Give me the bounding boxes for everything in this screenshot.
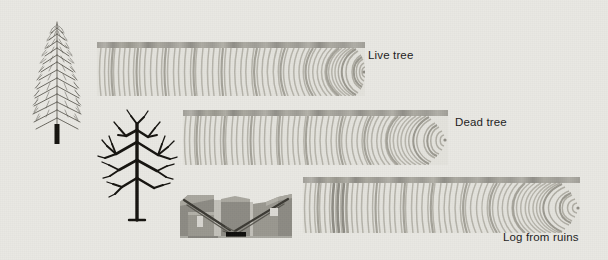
bark-edge xyxy=(97,42,365,48)
ruins-illustration xyxy=(178,186,300,242)
bark-edge xyxy=(183,110,448,116)
sample-dead-tree-core xyxy=(183,110,448,165)
core-body xyxy=(97,42,365,96)
live-conifer-illustration xyxy=(22,12,92,144)
sample-live-tree-core xyxy=(97,42,365,96)
sample-label-dead-tree: Dead tree xyxy=(455,116,507,128)
bark-edge xyxy=(303,177,580,183)
figure-canvas: Live tree xyxy=(0,0,608,260)
sample-ruins-log-core xyxy=(303,177,580,233)
core-body xyxy=(183,110,448,165)
core-body xyxy=(303,177,580,233)
dead-tree-illustration xyxy=(88,108,186,230)
sample-label-live-tree: Live tree xyxy=(368,49,413,61)
sample-label-ruins-log: Log from ruins xyxy=(503,231,579,243)
